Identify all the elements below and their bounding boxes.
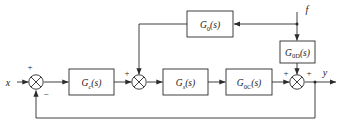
signal-label-input-x: x bbox=[5, 77, 11, 88]
sum1-sign-minus: − bbox=[43, 89, 48, 99]
summing-junction-3: + + bbox=[283, 68, 311, 89]
sum3-sign-plus-right: + bbox=[306, 68, 311, 78]
block-diagram-canvas: Gc(s) Gs(s) G0C(s) G0(s) bbox=[0, 0, 346, 132]
block-g0c: G0C(s) bbox=[226, 69, 272, 95]
wire-f-trunk bbox=[296, 12, 299, 41]
block-gc-label: Gc(s) bbox=[82, 78, 102, 90]
block-gc: Gc(s) bbox=[69, 69, 114, 95]
sum3-sign-plus-left: + bbox=[283, 68, 288, 78]
junction-dot-output bbox=[314, 81, 317, 84]
signal-label-output-y: y bbox=[322, 67, 328, 78]
block-g0-label: G0(s) bbox=[200, 20, 220, 32]
block-g0: G0(s) bbox=[187, 11, 233, 37]
summing-junction-2: + bbox=[124, 68, 146, 89]
signal-label-disturbance-f: f bbox=[306, 4, 310, 15]
sum2-sign-plus: + bbox=[124, 68, 129, 78]
block-gs-label: Gs(s) bbox=[176, 78, 195, 90]
block-gs: Gs(s) bbox=[163, 69, 208, 95]
wire-g0-to-sum2 bbox=[139, 24, 188, 75]
block-g0d: G0D(s) bbox=[280, 41, 315, 63]
sum1-sign-plus: + bbox=[27, 62, 32, 72]
summing-junction-1: + − bbox=[27, 62, 48, 99]
block-diagram-svg: Gc(s) Gs(s) G0C(s) G0(s) bbox=[0, 0, 346, 132]
